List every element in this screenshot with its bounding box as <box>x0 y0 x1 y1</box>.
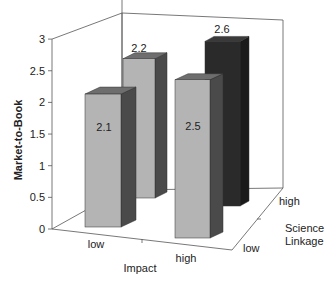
bar: 2.1 <box>85 87 136 227</box>
chart-3d-bar: 00.511.522.53 2.22.62.12.5 Market-to-Boo… <box>0 0 330 283</box>
y-tick-label: 0.5 <box>30 191 45 203</box>
bar: 2.5 <box>175 74 223 238</box>
z-tick-low: low <box>243 242 260 254</box>
y-tick-label: 2.5 <box>30 65 45 77</box>
data-label: 2.2 <box>131 42 146 54</box>
z-axis-label-line1: Science <box>285 222 324 234</box>
y-axis-label: Market-to-Book <box>12 99 24 181</box>
data-label: 2.1 <box>96 121 111 133</box>
y-tick-label: 1.5 <box>30 128 45 140</box>
y-tick-label: 0 <box>39 223 45 235</box>
x-tick-high: high <box>176 252 197 264</box>
y-tick-label: 1 <box>39 160 45 172</box>
bars: 2.22.62.12.5 <box>85 23 249 238</box>
z-tick-high: high <box>279 195 300 207</box>
y-tick-label: 2 <box>39 96 45 108</box>
data-label: 2.6 <box>214 23 229 35</box>
data-label: 2.5 <box>185 120 200 132</box>
y-tick-label: 3 <box>39 33 45 45</box>
z-axis-label-line2: Linkage <box>285 235 324 247</box>
x-tick-low: low <box>88 238 105 250</box>
x-axis-label: Impact <box>123 262 156 274</box>
y-axis-ticks: 00.511.522.53 <box>30 33 52 235</box>
